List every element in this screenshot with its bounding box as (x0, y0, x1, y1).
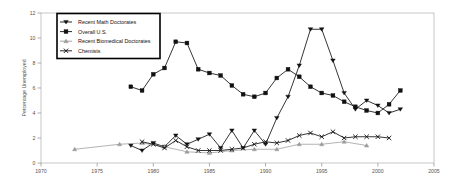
marker-triangle-down (342, 91, 347, 95)
marker-square (264, 91, 268, 95)
legend-label-2: Recent Biomedical Doctorates (78, 38, 151, 44)
y-tick-label-12: 12 (30, 10, 36, 16)
legend-label-0: Recent Math Doctorates (78, 19, 136, 25)
marker-triangle-down (140, 149, 145, 153)
legend-label-1: Overall U.S. (78, 29, 107, 35)
y-tick-label-4: 4 (33, 110, 36, 116)
marker-square (286, 67, 290, 71)
marker-square (320, 91, 324, 95)
marker-square (208, 71, 212, 75)
y-tick-label-10: 10 (30, 35, 36, 41)
marker-square (342, 100, 346, 104)
marker-square (398, 89, 402, 93)
marker-triangle-down (286, 95, 291, 99)
x-tick-label-1995: 1995 (316, 168, 328, 174)
marker-triangle-down (196, 138, 201, 142)
marker-x (331, 130, 335, 134)
series-line (131, 29, 400, 150)
x-tick-label-1975: 1975 (91, 168, 103, 174)
marker-triangle-down (129, 144, 134, 148)
marker-square (297, 75, 301, 79)
marker-square (252, 95, 256, 99)
x-tick-label-1980: 1980 (148, 168, 160, 174)
marker-triangle-down (331, 59, 336, 63)
marker-x (174, 138, 178, 142)
marker-triangle-down (387, 111, 392, 115)
marker-square (230, 84, 234, 88)
marker-square (331, 94, 335, 98)
marker-square (185, 41, 189, 45)
series-overall-u-s (129, 40, 402, 115)
marker-square (129, 85, 133, 89)
marker-square (163, 66, 167, 70)
legend-label-3: Chemists (78, 48, 101, 54)
x-tick-label-2005: 2005 (428, 168, 440, 174)
marker-square (387, 102, 391, 106)
marker-square (275, 76, 279, 80)
marker-square (140, 89, 144, 93)
marker-square (64, 30, 68, 34)
series-line (131, 42, 400, 113)
x-tick-label-1985: 1985 (204, 168, 216, 174)
x-tick-label-2000: 2000 (372, 168, 384, 174)
chart-figure: 0246810121970197519801985199019952000200… (0, 0, 452, 190)
y-tick-label-8: 8 (33, 60, 36, 66)
marker-square (151, 72, 155, 76)
marker-square (365, 109, 369, 113)
marker-triangle-down (275, 116, 280, 120)
unemployment-line-chart: 0246810121970197519801985199019952000200… (0, 0, 452, 190)
series-recent-math-doctorates (129, 28, 403, 153)
marker-triangle-down (230, 129, 235, 133)
y-tick-label-6: 6 (33, 85, 36, 91)
x-tick-label-1970: 1970 (35, 168, 47, 174)
x-tick-label-1990: 1990 (260, 168, 272, 174)
marker-square (219, 74, 223, 78)
marker-square (196, 67, 200, 71)
y-tick-label-0: 0 (33, 160, 36, 166)
marker-square (241, 92, 245, 96)
marker-square (376, 111, 380, 115)
y-axis-title: Percentage Unemployed (21, 59, 27, 116)
marker-square (309, 85, 313, 89)
marker-square (354, 105, 358, 109)
marker-triangle-down (297, 64, 302, 68)
y-tick-label-2: 2 (33, 135, 36, 141)
marker-square (174, 40, 178, 44)
marker-triangle-gray (342, 140, 346, 144)
legend: Recent Math DoctoratesOverall U.S.Recent… (57, 14, 160, 59)
marker-x (320, 135, 324, 139)
